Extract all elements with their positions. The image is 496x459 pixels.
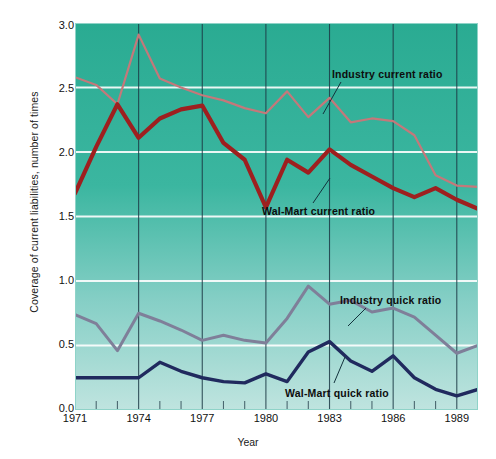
annotation-industry-quick-ratio: Industry quick ratio — [340, 294, 441, 306]
x-tick-1: 1974 — [126, 412, 150, 424]
x-tick-3: 1980 — [254, 412, 278, 424]
x-tick-0: 1971 — [63, 412, 87, 424]
x-tick-2: 1977 — [190, 412, 214, 424]
y-tick-3: 1.5 — [40, 210, 74, 222]
y-tick-6: 3.0 — [40, 19, 74, 31]
y-tick-1: 0.5 — [40, 338, 74, 350]
y-tick-4: 2.0 — [40, 146, 74, 158]
x-tick-4: 1983 — [317, 412, 341, 424]
y-axis-tick-labels: 0.0 0.5 1.0 1.5 2.0 2.5 3.0 — [34, 0, 74, 459]
x-axis-title: Year — [0, 436, 496, 448]
annotation-wal-mart-current-ratio: Wal-Mart current ratio — [262, 205, 375, 217]
y-tick-5: 2.5 — [40, 82, 74, 94]
y-tick-2: 1.0 — [40, 274, 74, 286]
x-tick-5: 1986 — [381, 412, 405, 424]
chart-figure: Coverage of current liabilities, number … — [0, 0, 496, 459]
annotation-industry-current-ratio: Industry current ratio — [332, 68, 443, 80]
annotation-wal-mart-quick-ratio: Wal-Mart quick ratio — [285, 387, 389, 399]
x-tick-6: 1989 — [445, 412, 469, 424]
